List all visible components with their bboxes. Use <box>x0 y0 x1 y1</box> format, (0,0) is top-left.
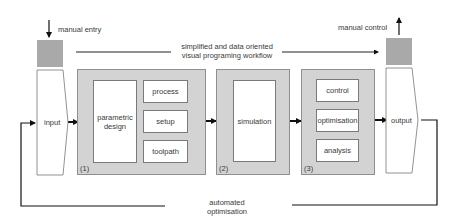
manual-control-label: manual control <box>338 23 387 32</box>
toolpath-box: toolpath <box>143 140 188 163</box>
block-3-number: (3) <box>304 164 313 173</box>
parametric-design-box: parametric design <box>93 80 137 163</box>
automated-optimisation-caption: automated optimisation <box>172 198 282 216</box>
analysis-box: analysis <box>316 139 359 162</box>
workflow-caption: simplified and data oriented visual prog… <box>172 42 282 60</box>
block-2-number: (2) <box>219 164 228 173</box>
optimisation-box: optimisation <box>316 109 359 132</box>
workflow-diagram: manual entry manual control simplified a… <box>0 0 453 222</box>
output-label: output <box>391 116 412 125</box>
simulation-box: simulation <box>233 80 276 162</box>
setup-box: setup <box>143 110 188 133</box>
input-label: input <box>44 118 60 127</box>
manual-entry-square <box>37 40 63 67</box>
block-1-number: (1) <box>80 164 89 173</box>
process-box: process <box>143 80 188 103</box>
control-box: control <box>316 79 359 102</box>
manual-control-square <box>386 38 412 65</box>
manual-entry-label: manual entry <box>58 25 101 34</box>
